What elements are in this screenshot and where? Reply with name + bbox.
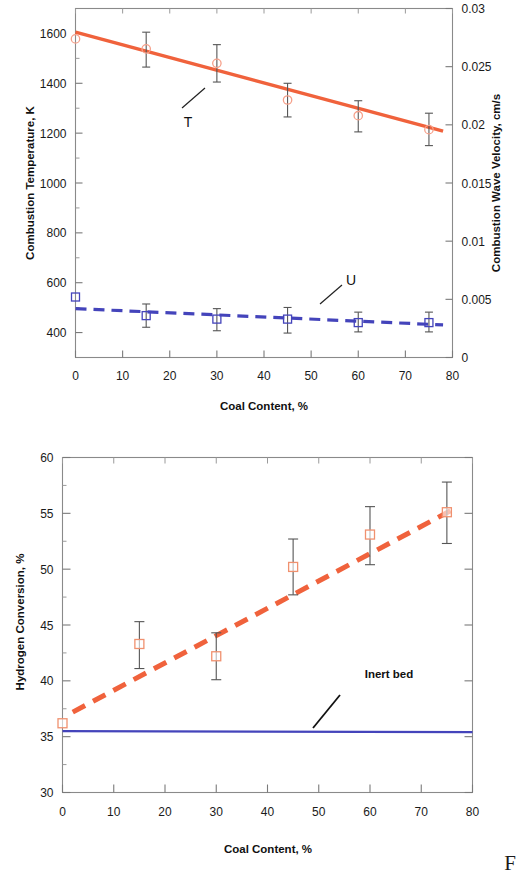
left-tick-label: 1200: [40, 127, 67, 141]
x-tick-label: 40: [261, 805, 275, 819]
chart-panel-combustion-temperature-velocity: 4006008001000120014001600 00.0050.010.01…: [0, 0, 518, 440]
conversion-fit-line: [73, 510, 452, 712]
top-axis-ticks: [63, 458, 473, 464]
left-tick-label: 40: [40, 674, 54, 688]
right-tick-label: 0.02: [462, 118, 486, 132]
x-axis-title: Coal Content, %: [220, 400, 308, 412]
conversion-marker: [212, 652, 221, 661]
left-tick-label: 1000: [40, 177, 67, 191]
left-tick-label: 800: [46, 226, 66, 240]
left-tick-label: 30: [40, 786, 54, 800]
left-axis-ticks: [63, 458, 71, 793]
conversion-marker: [442, 508, 451, 517]
velocity-fit-segment: [76, 309, 444, 325]
left-axis-tick-labels: 30354045505560: [40, 451, 54, 800]
conversion-marker: [289, 562, 298, 571]
top-axis-ticks: [76, 9, 453, 14]
page-corner-glyph: F: [504, 853, 516, 874]
left-tick-label: 400: [46, 326, 66, 340]
plot-frame: [76, 9, 453, 358]
right-tick-label: 0.025: [462, 60, 492, 74]
velocity-data-points: [72, 293, 433, 327]
x-tick-label: 20: [163, 369, 177, 383]
plot-frame: [63, 458, 473, 793]
right-axis-tick-labels: 00.0050.010.0150.020.0250.03: [462, 2, 492, 365]
conversion-fit-segment: [73, 510, 452, 712]
right-tick-label: 0.005: [462, 293, 492, 307]
velocity-error-bars: [142, 304, 433, 333]
figure-page: 4006008001000120014001600 00.0050.010.01…: [0, 0, 518, 878]
x-tick-label: 50: [312, 805, 326, 819]
temperature-series-label: T: [184, 114, 193, 130]
left-tick-label: 45: [40, 619, 54, 633]
x-tick-label: 30: [210, 369, 224, 383]
left-tick-label: 1600: [40, 27, 67, 41]
x-tick-label: 0: [59, 805, 66, 819]
inert-bed-line: [63, 731, 473, 732]
right-axis-ticks: [465, 458, 473, 793]
x-tick-label: 30: [210, 805, 224, 819]
temperature-fit-line: [76, 32, 444, 131]
x-axis-ticks: [76, 351, 453, 358]
hydrogen-conversion-chart: 30354045505560 01020304050607080 Inert b…: [0, 440, 518, 878]
combustion-temperature-velocity-chart: 4006008001000120014001600 00.0050.010.01…: [0, 0, 518, 440]
x-tick-label: 60: [352, 369, 366, 383]
inert-bed-segment: [63, 731, 473, 732]
velocity-leader-line: [320, 285, 342, 304]
left-tick-label: 50: [40, 563, 54, 577]
conversion-error-bars: [134, 482, 452, 680]
x-tick-label: 60: [363, 805, 377, 819]
left-tick-label: 60: [40, 451, 54, 465]
inert-bed-label: Inert bed: [365, 668, 414, 680]
x-tick-label: 80: [466, 805, 480, 819]
temperature-fit-segment: [76, 32, 444, 131]
left-axis-tick-labels: 4006008001000120014001600: [40, 27, 67, 340]
right-tick-label: 0.015: [462, 177, 492, 191]
x-axis-ticks: [63, 785, 473, 793]
left-axis-ticks: [76, 33, 83, 332]
left-axis-title: Hydrogen Conversion, %: [14, 554, 26, 691]
x-axis-title: Coal Content, %: [224, 843, 312, 855]
series-annotations: T U: [182, 88, 356, 304]
x-tick-label: 50: [304, 369, 318, 383]
conversion-marker: [58, 719, 67, 728]
x-tick-label: 10: [116, 369, 130, 383]
x-axis-tick-labels: 01020304050607080: [59, 805, 479, 819]
x-tick-label: 20: [158, 805, 172, 819]
x-tick-label: 70: [399, 369, 413, 383]
x-tick-label: 40: [257, 369, 271, 383]
temperature-leader-line: [182, 88, 205, 108]
left-tick-label: 1400: [40, 77, 67, 91]
x-tick-label: 0: [72, 369, 79, 383]
chart-panel-hydrogen-conversion: 30354045505560 01020304050607080 Inert b…: [0, 440, 518, 878]
conversion-marker: [135, 639, 144, 648]
x-axis-tick-labels: 01020304050607080: [72, 369, 459, 383]
left-axis-title: Combustion Temperature, K: [24, 105, 36, 259]
x-tick-label: 10: [107, 805, 121, 819]
temperature-data-points: [71, 35, 433, 134]
right-tick-label: 0.01: [462, 235, 486, 249]
left-tick-label: 35: [40, 730, 54, 744]
velocity-series-label: U: [346, 272, 356, 288]
conversion-marker: [366, 530, 375, 539]
velocity-fit-line: [76, 309, 444, 325]
conversion-data-points: [58, 508, 451, 728]
left-tick-label: 55: [40, 507, 54, 521]
inert-bed-leader-line: [313, 695, 340, 728]
x-tick-label: 70: [415, 805, 429, 819]
right-tick-label: 0.03: [462, 2, 486, 16]
x-tick-label: 80: [446, 369, 460, 383]
right-tick-label: 0: [462, 351, 469, 365]
right-axis-ticks: [446, 9, 453, 358]
right-axis-title: Combustion Wave Velocity, cm/s: [490, 94, 502, 272]
inert-bed-annotation: Inert bed: [313, 668, 413, 728]
left-tick-label: 600: [46, 276, 66, 290]
